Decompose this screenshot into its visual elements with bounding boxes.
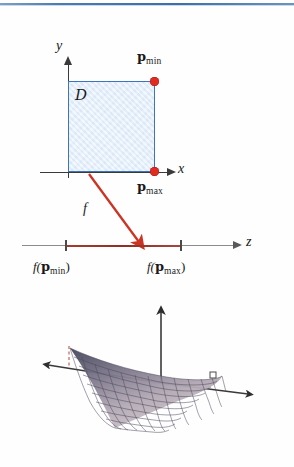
z-axis-arrowhead-icon [233, 241, 242, 249]
tick-fpmax-label: f(pmax) [147, 259, 185, 276]
pmin-subscript: min [146, 56, 161, 66]
fpmin-subscript: min [50, 266, 65, 276]
fpmin-prefix: f( [33, 259, 41, 274]
surface-panel: z x y 2 2 f [0, 288, 294, 467]
z-range-segment [66, 245, 181, 247]
fpmin-suffix: ) [65, 259, 69, 274]
surface-plot-graphic [0, 288, 294, 467]
fpmax-subscript: max [164, 266, 181, 276]
tick-fpmin-mark [65, 240, 67, 251]
tick-fpmax-mark [180, 240, 182, 251]
z-numberline-panel: z f(pmin) f(pmax) [0, 215, 294, 290]
tick-fpmin-label: f(pmin) [33, 259, 70, 276]
figure-container: y x D pmin pmax f z f(pmin) f(pmax) [0, 0, 294, 467]
point-pmin-label: pmin [137, 49, 161, 66]
fpmax-prefix: f( [147, 259, 155, 274]
domain-panel: y x D pmin pmax f [0, 0, 294, 215]
z-axis-label: z [246, 234, 251, 250]
y-axis-arrowhead-icon [64, 56, 72, 65]
fpmin-base: p [41, 259, 50, 274]
point-pmin-marker [150, 77, 159, 86]
fpmax-suffix: ) [181, 259, 185, 274]
fpmax-base: p [155, 259, 164, 274]
y-axis-label: y [56, 38, 62, 54]
domain-region-label: D [75, 86, 88, 104]
pmin-base: p [137, 49, 146, 64]
